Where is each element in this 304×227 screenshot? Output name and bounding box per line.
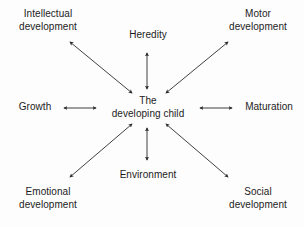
- connector-center-intellectual: [70, 42, 132, 93]
- node-social-development: Social development: [214, 186, 302, 211]
- node-environment: Environment: [108, 169, 188, 182]
- node-emotional-development: Emotional development: [2, 186, 94, 211]
- node-center-developing-child: The developing child: [100, 95, 196, 120]
- node-growth: Growth: [8, 101, 62, 114]
- developing-child-diagram: Intellectual development Heredity Motor …: [0, 0, 304, 227]
- node-heredity: Heredity: [110, 29, 186, 42]
- node-intellectual-development: Intellectual development: [2, 8, 94, 33]
- connector-center-motor: [166, 42, 228, 93]
- node-motor-development: Motor development: [214, 8, 302, 33]
- node-maturation: Maturation: [236, 101, 302, 114]
